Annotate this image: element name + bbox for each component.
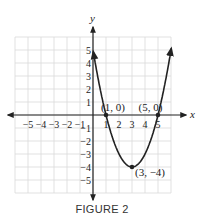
y-tick-label: 3 [86, 71, 91, 82]
y-tick-label: −2 [80, 136, 91, 147]
y-tick-label: −5 [80, 175, 91, 186]
y-tick-label: 5 [86, 45, 91, 56]
annotation-1-0: (1, 0) [101, 101, 125, 114]
y-tick-label: −1 [80, 123, 91, 134]
y-tick-label: 2 [86, 84, 91, 95]
point-marker [130, 165, 135, 170]
x-tick-label: 3 [130, 119, 135, 130]
y-tick-label: −3 [80, 149, 91, 160]
x-tick-label: 4 [143, 119, 148, 130]
graph: −5−4−3−2−11234554321−1−2−3−4−5 (1, 0)(5,… [0, 0, 204, 221]
annotation-5-0: (5, 0) [139, 101, 163, 114]
y-tick-label: 4 [86, 58, 91, 69]
x-axis-label: x [189, 108, 195, 120]
y-tick-label: 1 [86, 97, 91, 108]
x-tick-label: −2 [62, 119, 73, 130]
point-marker [104, 113, 109, 118]
x-tick-label: −5 [23, 119, 34, 130]
x-tick-label: 2 [117, 119, 122, 130]
x-tick-label: −3 [49, 119, 60, 130]
point-marker [156, 113, 161, 118]
figure-caption: FIGURE 2 [0, 203, 204, 215]
y-tick-label: −4 [80, 162, 91, 173]
x-tick-label: −4 [36, 119, 47, 130]
y-axis-label: y [89, 12, 95, 24]
annotation-3-neg4: (3, −4) [135, 166, 165, 179]
